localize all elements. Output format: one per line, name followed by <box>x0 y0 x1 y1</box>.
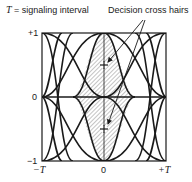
eye-diagram <box>0 0 192 182</box>
